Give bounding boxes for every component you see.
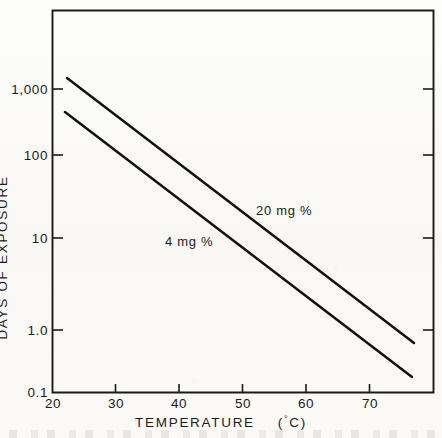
x-axis-title-text: TEMPERATURE — [135, 415, 255, 430]
y-axis-ticks-right — [423, 89, 434, 330]
degree-symbol: ° — [284, 414, 289, 424]
chart-canvas — [0, 0, 442, 438]
y-axis-ticks — [53, 89, 64, 330]
y-tick-label-1000: 1,000 — [0, 82, 48, 97]
x-tick-label-40: 40 — [171, 396, 187, 411]
axes-frame — [53, 11, 434, 393]
x-axis-title-unit: (°C) — [278, 415, 307, 430]
series-annotation-20mg: 20 mg % — [256, 203, 312, 218]
plot-frame — [53, 11, 434, 393]
x-tick-label-50: 50 — [235, 396, 251, 411]
x-axis-title: TEMPERATURE (°C) — [135, 414, 307, 430]
x-tick-label-20: 20 — [45, 396, 61, 411]
y-tick-label-100: 100 — [0, 148, 48, 163]
y-axis-title: DAYS OF EXPOSURE — [0, 175, 10, 339]
x-tick-label-30: 30 — [108, 396, 124, 411]
y-tick-label-0.1: 0.1 — [0, 385, 48, 400]
x-tick-label-70: 70 — [362, 396, 378, 411]
series-group — [65, 78, 414, 377]
series-line-4mg — [65, 112, 412, 377]
series-line-20mg — [67, 78, 414, 343]
x-axis-ticks — [116, 384, 370, 393]
x-tick-label-60: 60 — [298, 396, 314, 411]
series-annotation-4mg: 4 mg % — [165, 234, 213, 249]
figure-panel: 1,000 100 10 1.0 0.1 20 30 40 50 60 70 D… — [0, 0, 442, 438]
